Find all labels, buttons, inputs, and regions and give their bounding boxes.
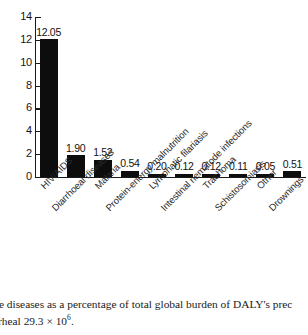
y-tick-label: 4 bbox=[4, 125, 32, 136]
x-axis-label: Drownings bbox=[267, 175, 305, 213]
caption-line-2-text: iarrheal 29.3 × 10 bbox=[0, 315, 67, 327]
caption-line-1: borne diseases as a percentage of total … bbox=[0, 297, 292, 312]
y-tick-label: 14 bbox=[4, 11, 32, 22]
y-tick-label: 10 bbox=[4, 57, 32, 68]
y-tick-label: 8 bbox=[4, 80, 32, 91]
caption-line-2: iarrheal 29.3 × 106. bbox=[0, 311, 74, 328]
x-axis-category-labels: HIV/AIDSDiarrhoeal diseasesMalariaProtei… bbox=[0, 178, 308, 283]
bar bbox=[40, 39, 58, 177]
caption-line-2-tail: . bbox=[71, 315, 74, 327]
bar-value-label: 12.05 bbox=[28, 27, 70, 38]
y-tick-label: 6 bbox=[4, 102, 32, 113]
figure: 02468101214 12.051.901.520.540.200.120.1… bbox=[0, 0, 308, 335]
bar-value-label: 0.51 bbox=[271, 159, 308, 170]
y-tick-label: 2 bbox=[4, 148, 32, 159]
